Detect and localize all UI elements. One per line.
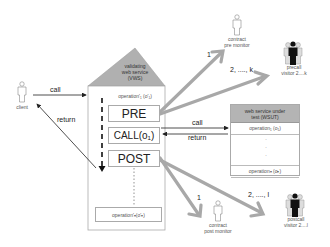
- vws-operation-first: operation'₁ (o'₁): [108, 93, 162, 99]
- pre-label: PRE: [122, 107, 147, 121]
- call-label: CALL(o₁): [114, 130, 155, 141]
- post-box: POST: [108, 150, 160, 167]
- vws-operation-last-label: operation'ₙ(o'ₙ): [112, 212, 145, 218]
- vws-title: validating web service (VWS): [110, 63, 160, 81]
- wsut-box: web service under test (WSUT) operation₁…: [230, 104, 300, 176]
- wsut-call-label: call: [192, 119, 203, 126]
- wsut-return-label: return: [188, 134, 206, 141]
- postcall-visitors-label: postcall visitor 2....l: [278, 216, 314, 228]
- pre-box: PRE: [108, 105, 160, 122]
- vws-title-line3: (VWS): [110, 75, 160, 81]
- client-person-icon: [18, 82, 26, 102]
- precall-line2: visitor 2....k: [276, 70, 312, 76]
- postcall-visitors-icon: [286, 193, 304, 217]
- pre-monitor-label: contract pre monitor: [220, 36, 254, 48]
- post-monitor-line2: post monitor: [200, 228, 236, 234]
- pre-monitor-arrow-label: 1: [207, 51, 211, 58]
- pre-monitor-person-icon: [233, 15, 241, 35]
- post-label: POST: [118, 152, 151, 166]
- client-call-label: call: [50, 86, 61, 93]
- wsut-operation-first: operation₁ (o₁): [231, 123, 299, 135]
- wsut-title-line2: test (WSUT): [231, 114, 299, 120]
- vws-operation-last-box: operation'ₙ(o'ₙ): [95, 207, 162, 222]
- wsut-operation-last: operationₙ (oₙ): [231, 166, 299, 178]
- call-box: CALL(o₁): [108, 127, 160, 144]
- post-monitor-arrow-label: 1: [197, 194, 201, 201]
- postcall-arrow-label: 2, ...., l: [248, 191, 269, 198]
- post-monitor-label: contract post monitor: [200, 222, 236, 234]
- client-return-arrow: [37, 104, 96, 168]
- precall-arrow-label: 2, ...., k: [230, 66, 253, 73]
- precall-visitors-icon: [284, 41, 302, 65]
- client-return-label: return: [57, 116, 75, 123]
- wsut-header: web service under test (WSUT): [231, 105, 299, 123]
- post-monitor-person-icon: [214, 201, 222, 221]
- dot: ·: [265, 144, 267, 150]
- client-label: client: [12, 104, 32, 110]
- wsut-ellipsis: · · ·: [231, 135, 299, 166]
- dot: ·: [265, 136, 267, 142]
- postcall-line2: visitor 2....l: [278, 222, 314, 228]
- pre-monitor-line2: pre monitor: [220, 42, 254, 48]
- dot: ·: [265, 152, 267, 158]
- precall-visitors-label: precall visitor 2....k: [276, 64, 312, 76]
